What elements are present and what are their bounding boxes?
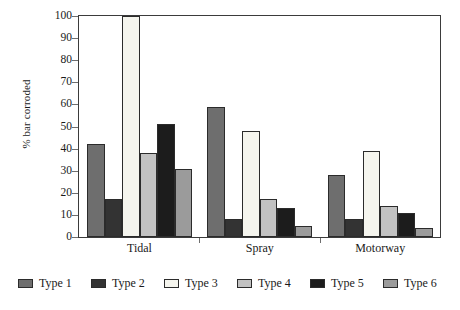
legend-swatch-icon	[164, 279, 179, 288]
bar	[105, 199, 123, 237]
bar	[380, 206, 398, 237]
bar	[242, 131, 260, 237]
legend-item[interactable]: Type 3	[164, 274, 218, 292]
y-axis-tick-label: 50	[26, 121, 72, 133]
bar	[363, 151, 381, 237]
legend-label: Type 4	[258, 277, 291, 289]
y-axis-tick-label: 90	[26, 32, 72, 44]
bar	[157, 124, 175, 237]
bar	[415, 228, 433, 237]
legend-item[interactable]: Type 2	[91, 274, 145, 292]
bar	[295, 226, 313, 237]
bar	[122, 16, 140, 237]
y-axis-tick-label: 10	[26, 209, 72, 221]
y-axis-tick-label: 70	[26, 76, 72, 88]
x-axis-group-label: Spray	[200, 241, 320, 256]
bars-layer	[79, 16, 440, 237]
legend-label: Type 5	[331, 277, 364, 289]
legend-item[interactable]: Type 6	[383, 274, 437, 292]
bar	[207, 107, 225, 237]
bar	[175, 169, 193, 238]
y-axis-tick-label: 20	[26, 187, 72, 199]
x-axis-group-label: Motorway	[320, 241, 440, 256]
x-axis-tick	[199, 238, 200, 243]
legend-label: Type 2	[112, 277, 145, 289]
y-axis-tick-label: 60	[26, 98, 72, 110]
legend-swatch-icon	[237, 279, 252, 288]
bar	[87, 144, 105, 237]
bar	[328, 175, 346, 237]
legend-item[interactable]: Type 4	[237, 274, 291, 292]
legend-label: Type 6	[404, 277, 437, 289]
bar	[225, 219, 243, 237]
legend-swatch-icon	[18, 279, 33, 288]
legend-label: Type 1	[39, 277, 72, 289]
bar	[260, 199, 278, 237]
legend-swatch-icon	[310, 279, 325, 288]
bar	[398, 213, 416, 237]
legend-swatch-icon	[383, 279, 398, 288]
legend-item[interactable]: Type 1	[18, 274, 72, 292]
y-axis-tick-label: 40	[26, 143, 72, 155]
bar	[277, 208, 295, 237]
y-axis-tick-label: 80	[26, 54, 72, 66]
legend-item[interactable]: Type 5	[310, 274, 364, 292]
x-axis-group-label: Tidal	[80, 241, 200, 256]
legend-label: Type 3	[185, 277, 218, 289]
y-axis-tick-label: 100	[26, 10, 72, 22]
legend-swatch-icon	[91, 279, 106, 288]
y-axis-tick-label: 0	[26, 231, 72, 243]
x-axis-tick	[320, 238, 321, 243]
bar-chart: % bar corroded 0102030405060708090100 Ti…	[0, 0, 460, 310]
bar	[140, 153, 158, 237]
chart-legend: Type 1Type 2Type 3Type 4Type 5Type 6	[0, 274, 460, 296]
y-axis-tick-label: 30	[26, 165, 72, 177]
bar	[345, 219, 363, 237]
